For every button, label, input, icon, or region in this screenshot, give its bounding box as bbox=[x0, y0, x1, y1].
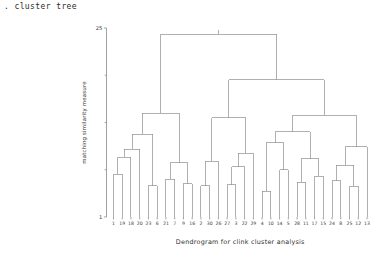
dendrogram-link bbox=[142, 113, 179, 163]
dendrogram-link bbox=[238, 153, 253, 217]
dendrogram-link bbox=[350, 186, 359, 217]
leaf-label: 3 bbox=[234, 221, 237, 226]
dendrogram-link bbox=[205, 161, 218, 217]
leaf-label: 28 bbox=[294, 221, 300, 226]
leaf-label: 16 bbox=[189, 221, 195, 226]
leaf-label: 12 bbox=[355, 221, 361, 226]
leaf-label: 11 bbox=[303, 221, 309, 226]
leaf-label: 22 bbox=[242, 221, 248, 226]
leaf-label: 18 bbox=[128, 221, 134, 226]
dendrogram-link bbox=[212, 118, 246, 161]
dendrogram-link bbox=[161, 34, 277, 113]
dendrogram-plot: 125 119182023621791623026273222941014528… bbox=[0, 0, 385, 256]
leaf-label: 4 bbox=[261, 221, 264, 226]
leaf-label: 9 bbox=[182, 221, 185, 226]
dendrogram-link bbox=[275, 132, 310, 159]
dendrogram-link bbox=[301, 159, 318, 183]
leaf-label: 10 bbox=[268, 221, 274, 226]
dendrogram-link bbox=[232, 167, 245, 217]
leaf-label-group: 1191820236217916230262732229410145281117… bbox=[112, 217, 370, 226]
dendrogram-link bbox=[148, 186, 157, 218]
dendrogram-link bbox=[297, 182, 306, 217]
screenshot-root: . cluster tree 125 119182023621791623026… bbox=[0, 0, 385, 256]
dendrogram-link bbox=[266, 143, 283, 191]
dendrogram-link bbox=[229, 80, 325, 118]
x-axis-caption: Dendrogram for clink cluster analysis bbox=[176, 238, 305, 246]
dendrogram-link bbox=[114, 174, 123, 217]
leaf-label: 6 bbox=[156, 221, 159, 226]
dendrogram-link bbox=[132, 134, 153, 185]
y-axis-caption: matching similarity measure bbox=[81, 81, 88, 164]
leaf-label: 7 bbox=[173, 221, 176, 226]
dendrogram-link bbox=[332, 181, 341, 217]
dendrogram-link bbox=[293, 115, 356, 147]
leaf-label: 24 bbox=[329, 221, 335, 226]
leaf-label: 15 bbox=[320, 221, 326, 226]
dendrogram-link bbox=[201, 186, 210, 218]
leaf-label: 25 bbox=[347, 221, 353, 226]
leaf-label: 1 bbox=[112, 221, 115, 226]
leaf-label: 19 bbox=[119, 221, 125, 226]
dendrogram-link bbox=[227, 185, 236, 217]
leaf-label: 2 bbox=[199, 221, 202, 226]
leaf-label: 27 bbox=[224, 221, 230, 226]
dendrogram-link bbox=[183, 184, 192, 217]
leaf-label: 23 bbox=[146, 221, 152, 226]
axes-group: 125 bbox=[96, 25, 107, 220]
dendrogram-link bbox=[118, 157, 131, 217]
dendrogram-link bbox=[336, 165, 353, 186]
leaf-label: 30 bbox=[207, 221, 213, 226]
dendrogram-link bbox=[262, 191, 271, 217]
dendrogram-link bbox=[315, 176, 324, 217]
y-axis-tick-label: 1 bbox=[99, 214, 102, 220]
leaf-label: 17 bbox=[312, 221, 318, 226]
leaf-label: 13 bbox=[364, 221, 370, 226]
leaf-label: 8 bbox=[339, 221, 342, 226]
dendrogram-links bbox=[114, 30, 368, 217]
leaf-label: 5 bbox=[287, 221, 290, 226]
dendrogram-link bbox=[170, 163, 187, 184]
leaf-label: 14 bbox=[277, 221, 283, 226]
dendrogram-link bbox=[124, 149, 139, 217]
dendrogram-link bbox=[166, 179, 175, 217]
dendrogram-link bbox=[345, 147, 367, 217]
leaf-label: 20 bbox=[137, 221, 143, 226]
y-axis-tick-label: 25 bbox=[96, 25, 103, 31]
dendrogram-link bbox=[280, 170, 289, 217]
leaf-label: 26 bbox=[215, 221, 221, 226]
leaf-label: 21 bbox=[163, 221, 169, 226]
leaf-label: 29 bbox=[250, 221, 256, 226]
